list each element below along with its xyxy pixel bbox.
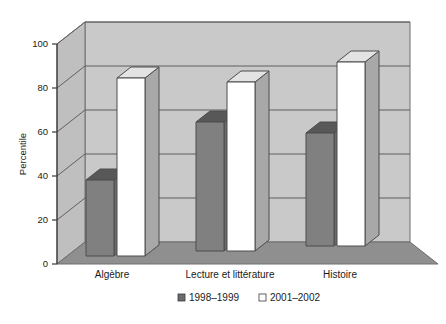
bar-front [306, 133, 334, 246]
category-label-lecture-et-litterature: Lecture et littérature [186, 269, 275, 280]
y-axis [52, 44, 57, 264]
category-label-algebre: Algèbre [95, 269, 130, 280]
bar-side [365, 51, 379, 246]
bar-2001-2002-lecture-et-litterature[interactable] [227, 71, 269, 251]
y-tick-label-100: 100 [32, 38, 48, 49]
bar-side [255, 71, 269, 251]
chart-container: 0 20 40 60 80 100 Percentile [0, 0, 446, 324]
y-tick-label-80: 80 [37, 82, 48, 93]
y-axis-title: Percentile [17, 133, 28, 175]
bar-front [196, 122, 224, 251]
bar-2001-2002-histoire[interactable] [337, 51, 379, 246]
legend-label-1998-1999: 1998–1999 [189, 292, 239, 303]
y-tick-label-0: 0 [43, 258, 48, 269]
bar-chart-3d: 0 20 40 60 80 100 Percentile [0, 0, 446, 324]
y-tick-label-20: 20 [37, 214, 48, 225]
category-label-histoire: Histoire [323, 269, 357, 280]
y-tick-label-40: 40 [37, 170, 48, 181]
bar-front [337, 62, 365, 246]
legend-item-1998-1999[interactable]: 1998–1999 [178, 292, 239, 303]
bar-front [227, 82, 255, 251]
chart-legend: 1998–1999 2001–2002 [178, 292, 320, 303]
y-tick-labels: 0 20 40 60 80 100 [32, 38, 48, 269]
legend-swatch-open-icon [259, 294, 266, 301]
legend-label-2001-2002: 2001–2002 [270, 292, 320, 303]
legend-swatch-filled-icon [178, 294, 185, 301]
left-wall [57, 22, 85, 264]
bar-front [117, 78, 145, 256]
bar-front [86, 180, 114, 256]
x-category-labels: Algèbre Lecture et littérature Histoire [95, 269, 358, 280]
y-tick-label-60: 60 [37, 126, 48, 137]
legend-item-2001-2002[interactable]: 2001–2002 [259, 292, 320, 303]
bar-2001-2002-algebre[interactable] [117, 67, 159, 256]
bar-side [145, 67, 159, 256]
